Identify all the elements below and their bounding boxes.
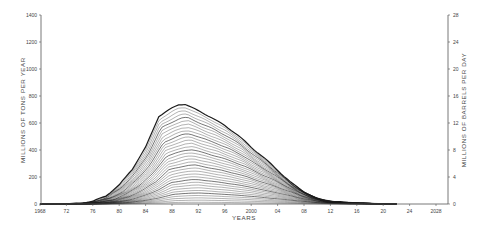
x-tick-label: 72 bbox=[64, 208, 70, 214]
production-curve bbox=[40, 114, 396, 204]
y-tick-label: 200 bbox=[29, 174, 38, 180]
y-right-tick-label: 16 bbox=[453, 93, 459, 99]
production-curve bbox=[40, 143, 396, 204]
y-right-tick-label: 4 bbox=[453, 174, 456, 180]
y-tick-label: 1400 bbox=[26, 12, 37, 18]
x-tick-label: 2028 bbox=[430, 208, 441, 214]
x-tick-label: 1968 bbox=[34, 208, 45, 214]
production-curve bbox=[40, 128, 396, 204]
production-curve bbox=[40, 134, 396, 204]
x-tick-label: 20 bbox=[380, 208, 386, 214]
y-tick-label: 800 bbox=[29, 93, 38, 99]
x-tick-labels: 19687276808488929620000408121620242028 bbox=[34, 204, 441, 214]
x-tick-label: 16 bbox=[354, 208, 360, 214]
x-tick-label: 96 bbox=[222, 208, 228, 214]
production-curve bbox=[40, 174, 396, 204]
y-right-tick-label: 28 bbox=[453, 12, 459, 18]
production-curve bbox=[40, 117, 396, 204]
x-tick-label: 88 bbox=[169, 208, 175, 214]
y-right-tick-label: 24 bbox=[453, 39, 459, 45]
x-tick-label: 84 bbox=[143, 208, 149, 214]
y-right-tick-label: 8 bbox=[453, 147, 456, 153]
x-tick-label: 92 bbox=[196, 208, 202, 214]
y-right-tick-label: 20 bbox=[453, 66, 459, 72]
y-tick-label: 400 bbox=[29, 147, 38, 153]
production-curves bbox=[40, 105, 396, 205]
production-curve bbox=[40, 131, 396, 204]
production-curve bbox=[40, 162, 396, 204]
right-tick-labels: 0481216202428 bbox=[448, 12, 459, 207]
x-tick-label: 12 bbox=[328, 208, 334, 214]
production-curve bbox=[40, 147, 396, 204]
y-axis-title: MILLIONS OF TONS PER YEAR bbox=[19, 57, 26, 163]
production-curve bbox=[40, 121, 396, 204]
chart: 0200400600800100012001400 0481216202428 … bbox=[0, 0, 488, 229]
production-curve bbox=[40, 111, 396, 204]
production-curve bbox=[40, 150, 396, 204]
y-tick-label: 0 bbox=[34, 201, 37, 207]
y-right-tick-label: 0 bbox=[453, 201, 456, 207]
production-curve bbox=[40, 177, 396, 204]
x-tick-label: 76 bbox=[90, 208, 96, 214]
left-tick-labels: 0200400600800100012001400 bbox=[26, 12, 41, 207]
x-tick-label: 80 bbox=[116, 208, 122, 214]
production-curve bbox=[40, 159, 396, 204]
y-right-axis-title: MILLIONS OF BARRELS PER DAY bbox=[460, 53, 467, 167]
y-tick-label: 600 bbox=[29, 120, 38, 126]
production-curve bbox=[40, 171, 396, 204]
x-axis-title: YEARS bbox=[232, 214, 256, 221]
y-tick-label: 1000 bbox=[26, 66, 37, 72]
x-tick-label: 24 bbox=[407, 208, 413, 214]
y-right-tick-label: 12 bbox=[453, 120, 459, 126]
y-tick-label: 1200 bbox=[26, 39, 37, 45]
production-curve bbox=[40, 156, 396, 204]
x-tick-label: 08 bbox=[301, 208, 307, 214]
x-tick-label: 04 bbox=[275, 208, 281, 214]
